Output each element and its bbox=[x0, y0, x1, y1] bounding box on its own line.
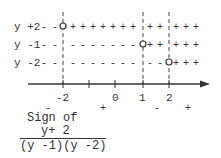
svg-text:-: - bbox=[110, 40, 116, 51]
interval-sign-4: + bbox=[185, 103, 191, 114]
row-label-y-plus-2: y +2- bbox=[14, 21, 47, 33]
open-circle-root-neg2 bbox=[60, 23, 66, 29]
svg-text:-: - bbox=[70, 40, 76, 51]
svg-text:-: - bbox=[52, 40, 58, 51]
row-label-y-minus-1: y -1- bbox=[14, 39, 47, 51]
svg-text:+: + bbox=[173, 58, 179, 69]
svg-text:-: - bbox=[130, 58, 136, 69]
tick-label-0: 0 bbox=[112, 92, 119, 104]
open-circle-root-2 bbox=[166, 59, 172, 65]
svg-text:+: + bbox=[193, 22, 199, 33]
svg-text:-: - bbox=[130, 40, 136, 51]
svg-text:+: + bbox=[183, 22, 189, 33]
svg-text:-: - bbox=[157, 58, 163, 69]
caption-denominator: (y -1)(y -2) bbox=[20, 138, 106, 153]
svg-text:+: + bbox=[120, 22, 126, 33]
caption-numerator: y+ 2 bbox=[20, 125, 106, 138]
tick-label-neg2: -2 bbox=[56, 92, 69, 104]
row-y-minus-2-signs: - --- --- --- +++ bbox=[52, 58, 199, 69]
row-y-minus-1-signs: - --- --- - ++ +++ bbox=[52, 40, 199, 51]
svg-text:+: + bbox=[173, 22, 179, 33]
svg-text:-: - bbox=[120, 58, 126, 69]
svg-text:+: + bbox=[90, 22, 96, 33]
svg-text:+: + bbox=[100, 22, 106, 33]
svg-text:+: + bbox=[183, 40, 189, 51]
svg-text:-: - bbox=[120, 40, 126, 51]
svg-text:+: + bbox=[147, 22, 153, 33]
svg-text:-: - bbox=[70, 58, 76, 69]
svg-text:-: - bbox=[52, 58, 58, 69]
tick-label-2: 2 bbox=[166, 92, 173, 104]
tick-label-1: 1 bbox=[139, 92, 146, 104]
svg-text:+: + bbox=[147, 40, 153, 51]
svg-text:-: - bbox=[100, 40, 106, 51]
svg-text:+: + bbox=[80, 22, 86, 33]
svg-text:+: + bbox=[173, 40, 179, 51]
axis-arrow-icon bbox=[200, 81, 210, 88]
svg-text:+: + bbox=[130, 22, 136, 33]
svg-text:-: - bbox=[100, 58, 106, 69]
svg-text:-: - bbox=[90, 40, 96, 51]
svg-text:-: - bbox=[52, 22, 58, 33]
svg-text:+: + bbox=[193, 58, 199, 69]
svg-text:+: + bbox=[193, 40, 199, 51]
svg-text:+: + bbox=[157, 40, 163, 51]
row-label-y-minus-2: y -2- bbox=[14, 57, 47, 69]
svg-text:-: - bbox=[147, 58, 153, 69]
svg-text:-: - bbox=[80, 40, 86, 51]
svg-text:+: + bbox=[183, 58, 189, 69]
svg-text:+: + bbox=[110, 22, 116, 33]
number-line bbox=[28, 80, 210, 88]
svg-text:-: - bbox=[110, 58, 116, 69]
svg-text:+: + bbox=[157, 22, 163, 33]
row-y-plus-2-signs: - +++ +++ +++ +++ bbox=[52, 22, 199, 33]
svg-text:-: - bbox=[90, 58, 96, 69]
sign-caption: Sign of y+ 2 (y -1)(y -2) bbox=[20, 112, 106, 153]
open-circle-root-1 bbox=[140, 41, 146, 47]
row-labels: y +2- y -1- y -2- bbox=[14, 21, 47, 69]
svg-text:-: - bbox=[80, 58, 86, 69]
svg-text:+: + bbox=[70, 22, 76, 33]
interval-sign-3: - bbox=[154, 103, 160, 114]
